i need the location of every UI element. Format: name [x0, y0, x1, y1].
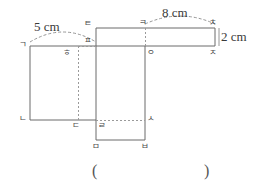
vertex-label-bieup: ㅂ [141, 142, 149, 151]
vertex-label-hieut: ㅎ [63, 48, 71, 57]
dimension-label-5cm: 5 cm [34, 20, 60, 33]
figure-container: 5 cm 8 cm 2 cm ㄱ ㄴ ㄷ ㄹ ㅁ ㅂ ㅅ ㅇ ㅈ ㅊ ㅋ ㅌ ㅍ… [0, 0, 268, 190]
vertex-label-giyeok: ㄱ [19, 40, 27, 49]
vertex-label-nieun: ㄴ [19, 114, 27, 123]
vertex-label-tieut: ㅌ [84, 19, 92, 28]
vertex-label-ieung: ㅇ [147, 48, 155, 57]
vertex-label-kieuk: ㅋ [139, 18, 147, 27]
vertex-label-chieut: ㅊ [209, 18, 217, 27]
vertex-label-digeut: ㄷ [72, 121, 80, 130]
vertex-label-siot: ㅅ [147, 114, 155, 123]
dimension-label-8cm: 8 cm [162, 6, 188, 19]
vertex-label-pieup: ㅍ [84, 36, 92, 45]
answer-open-paren: ( [92, 162, 97, 180]
vertex-label-mieum: ㅁ [92, 142, 100, 151]
vertex-label-rieul: ㄹ [98, 121, 106, 130]
answer-close-paren: ) [204, 162, 209, 180]
vertex-label-jieut: ㅈ [209, 48, 217, 57]
dimension-label-2cm: 2 cm [221, 30, 247, 43]
